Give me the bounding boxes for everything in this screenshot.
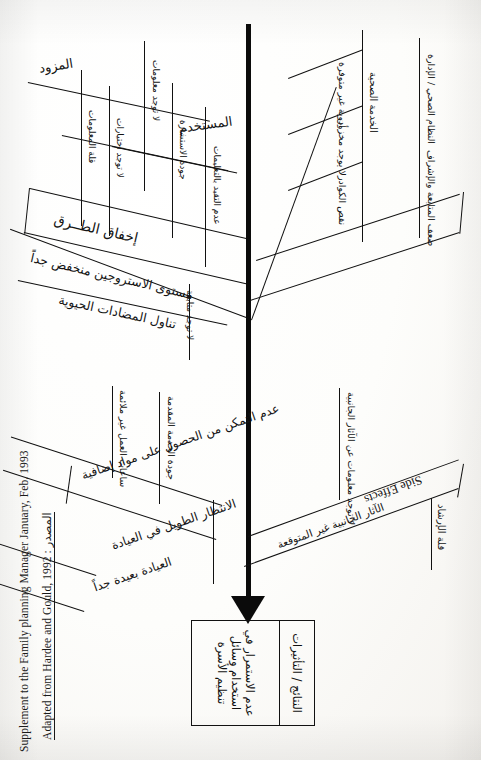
feeder-service-b	[288, 105, 363, 135]
branch-stick-supply-2	[109, 86, 110, 236]
feeder-service-c	[288, 161, 363, 191]
branch-stick-access-hours	[112, 386, 113, 478]
credit-line-1-ar: المصدر	[40, 512, 54, 547]
cause-access-2: العيادة بعيدة جداً	[92, 555, 173, 593]
credit-line-1: Adapted from Hardee and Gould, 1992 : ال…	[40, 512, 54, 740]
cause-access-4: ساعات العمل غير ملائمة	[119, 390, 129, 487]
cause-system-0: ضعف المتابعة والإشراف	[427, 150, 437, 246]
cause-side-effects-1: لا توجد معلومات عن الآثار الجانبية	[347, 392, 357, 525]
category-label-side-effects: قلة الإرشاد	[436, 504, 446, 550]
category-label-system: النظام الصحي / الإدارة	[427, 54, 437, 144]
rib-right-band-cap	[459, 192, 464, 234]
scanned-page: المزود المستخدم قلة المعلومات لا توجد اخ…	[0, 0, 481, 760]
branch-stick-user-2	[172, 83, 173, 238]
credit-line-2: Supplement to the Family planning Manage…	[18, 450, 30, 752]
cause-supply-1: لا توجد اختيارات	[115, 118, 124, 178]
result-box-cell-left: عدم الاستمرار في استخدام وسائل تنظيم الأ…	[192, 621, 279, 725]
rib-access-cap	[66, 466, 72, 504]
rib-right-band-bottom	[250, 232, 460, 301]
cause-methods-1: تناول المضادات الحيوية	[57, 294, 177, 331]
category-label-service: الخدمة الصحية	[368, 72, 378, 133]
cause-user-0: لا توجد معلومات	[151, 60, 160, 121]
credit-line-1-en: Adapted from Hardee and Gould, 1992 :	[41, 550, 53, 740]
rib-side-effects-cap	[457, 464, 464, 498]
cause-user-1: جودة الاستشارة	[178, 120, 187, 180]
result-box: النتائج / التأثيرات عدم الاستمرار في است…	[191, 620, 315, 726]
category-label-supply: المزود	[38, 57, 74, 75]
feeder-supply-a	[28, 82, 210, 122]
branch-stick-guidance	[431, 498, 432, 570]
fishbone-spine	[246, 24, 251, 604]
category-label-methods: إخفاق الطــرق	[53, 212, 140, 245]
cause-side-effects-0: الآثار الجانبية غير المتوقعة	[276, 502, 385, 550]
branch-stick-service-1	[362, 30, 363, 242]
result-box-cell-right: النتائج / التأثيرات	[279, 621, 314, 725]
side-effects-label: Side Effects	[362, 472, 424, 507]
cause-methods-0: مستوى الاستروجين منخفض جداً	[29, 252, 194, 302]
result-box-heading: النتائج / التأثيرات	[290, 633, 304, 713]
cause-service-1: لا يوجد مخزون	[338, 118, 348, 176]
branch-stick-methods-followup	[189, 284, 190, 360]
cause-service-2: نقص الكوادر	[338, 176, 348, 225]
credit-line-2-en: Supplement to the Family planning Manage…	[18, 450, 30, 752]
branch-stick-access-extra	[213, 500, 214, 584]
branch-stick-access-quality	[159, 392, 160, 504]
result-box-text: عدم الاستمرار في استخدام وسائل تنظيم الأ…	[215, 625, 257, 721]
rib-methods-cap	[24, 188, 30, 234]
cause-supply-0: قلة المعلومات	[87, 110, 96, 163]
cause-user-2: عدم التقيد بالتعليمات	[212, 146, 221, 225]
rib-access-top	[3, 469, 216, 540]
branch-stick-user-1	[144, 41, 145, 191]
cause-access-3: جودة الخدمة المقدمة	[167, 396, 177, 480]
feeder-service-a	[288, 49, 363, 79]
branch-stick-side-effects	[339, 388, 340, 500]
